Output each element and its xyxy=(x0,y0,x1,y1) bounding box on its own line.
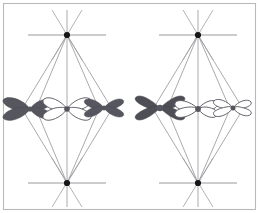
right-bottom-vertex-dot xyxy=(195,180,201,186)
figure-canvas xyxy=(0,0,259,213)
radiation-pattern-figure xyxy=(0,0,259,213)
left-top-vertex-dot xyxy=(64,32,70,38)
left-bottom-vertex-dot xyxy=(64,180,70,186)
right-top-vertex-dot xyxy=(195,32,201,38)
